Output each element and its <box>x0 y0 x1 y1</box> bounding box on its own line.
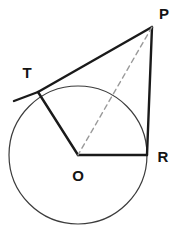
figure-canvas <box>0 0 181 232</box>
vertex-label-p: P <box>159 6 169 21</box>
vertex-label-r: R <box>158 149 169 164</box>
vertex-label-o: O <box>72 168 84 183</box>
tangent-pt-line <box>38 27 152 92</box>
vertex-label-t: T <box>22 65 31 80</box>
radius-ot-line <box>38 92 78 155</box>
geometry-figure: P T R O <box>0 0 181 232</box>
tangent-extension-line <box>14 92 38 101</box>
segment-pr-line <box>147 27 152 155</box>
dashed-po-line <box>78 27 152 155</box>
